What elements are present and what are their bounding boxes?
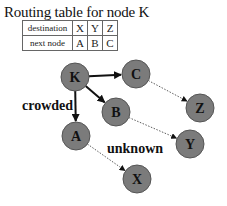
node-label: K (70, 70, 81, 85)
node-k: K (61, 63, 89, 91)
nodes-layer: KCBAZYX (61, 60, 214, 193)
crowded-label: crowded (22, 98, 73, 113)
node-x: X (123, 165, 151, 193)
edge-k-to-c (89, 75, 121, 77)
node-b: B (102, 98, 130, 126)
node-label: B (111, 105, 120, 120)
edges-layer (75, 75, 187, 171)
edge-c-to-z (148, 81, 186, 101)
edge-k-to-b (86, 86, 105, 102)
node-label: A (71, 129, 82, 144)
node-label: C (131, 67, 141, 82)
node-label: Y (185, 137, 195, 152)
unknown-label: unknown (107, 141, 163, 156)
edge-k-to-a (75, 91, 76, 121)
node-label: Z (195, 101, 204, 116)
node-a: A (62, 122, 90, 150)
node-c: C (122, 60, 150, 88)
network-graph: KCBAZYX crowded unknown (0, 0, 227, 206)
edge-b-to-y (129, 118, 176, 138)
node-y: Y (176, 130, 204, 158)
node-z: Z (186, 94, 214, 122)
node-label: X (132, 172, 142, 187)
